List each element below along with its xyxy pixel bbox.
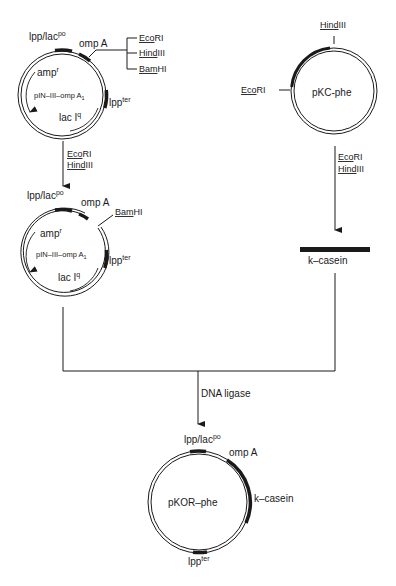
product-name: pKOR–phe — [168, 497, 218, 508]
enzyme-EcoRI: EcoRI — [338, 152, 363, 162]
site-HindIII: HindIII — [139, 48, 165, 58]
k-casein-label: k–casein — [254, 493, 293, 504]
promoter-label: lpp/lacpo — [27, 189, 64, 201]
terminator-segment — [105, 90, 107, 108]
ompA-label: omp A — [229, 447, 258, 458]
plasmid-1-name: pIN–III–omp A1 — [34, 91, 85, 101]
site-EcoRI: EcoRI — [241, 85, 266, 95]
promoter-label: lpp/lacpo — [184, 433, 221, 445]
ligation-label: DNA ligase — [201, 388, 251, 399]
promoter-label: lpp/lacpo — [29, 30, 66, 42]
plasmid-pKOR-phe: lpp/lacpo omp A k–casein pKOR–phe lppter — [148, 433, 293, 567]
lpp-ter-label: lppter — [109, 96, 131, 108]
enzyme-EcoRI: EcoRI — [67, 149, 92, 159]
site-EcoRI: EcoRI — [139, 33, 164, 43]
site-HindIII: HindIII — [320, 20, 346, 30]
plasmid-construction-diagram: lpp/lacpo omp A EcoRI HindIII BamHI ampr… — [0, 0, 396, 586]
k-casein-segment — [292, 48, 330, 87]
fragment-label: k–casein — [308, 255, 347, 266]
plasmid-1-cut-name: pIN–III–omp A1 — [36, 250, 87, 260]
lacIq-label: lac Iq — [59, 111, 81, 123]
enzyme-HindIII: HindIII — [338, 164, 364, 174]
amp-label: ampr — [40, 227, 62, 239]
terminator-segment — [193, 552, 207, 553]
lpp-ter-label: lppter — [109, 254, 131, 266]
site-BamHI: BamHI — [115, 207, 143, 217]
lpp-ter-label: lppter — [188, 555, 210, 567]
step-1-digest: EcoRI HindIII — [63, 141, 93, 186]
plasmid-pIN-III-ompA1: lpp/lacpo omp A EcoRI HindIII BamHI ampr… — [18, 30, 167, 139]
ompA-label: omp A — [81, 197, 110, 208]
plasmid-2-name: pKC-phe — [312, 87, 352, 98]
ompA-segment — [79, 54, 90, 61]
ligation-connector: DNA ligase — [63, 273, 335, 424]
k-casein-fragment: k–casein — [300, 247, 370, 266]
promoter-segment — [190, 451, 206, 452]
step-2-digest: EcoRI HindIII — [335, 146, 364, 230]
diagram-canvas: lpp/lacpo omp A EcoRI HindIII BamHI ampr… — [0, 0, 396, 586]
ompA-k-casein-segment — [227, 460, 250, 523]
lacIq-label: lac Iq — [58, 271, 80, 283]
enzyme-HindIII: HindIII — [67, 160, 93, 170]
amp-label: ampr — [37, 66, 59, 78]
ompA-label: omp A — [79, 38, 108, 49]
site-BamHI: BamHI — [139, 64, 167, 74]
plasmid-pIN-III-ompA1-cut: lpp/lacpo omp A BamHI ampr pIN–III–omp A… — [21, 189, 143, 296]
promoter-segment — [55, 50, 72, 51]
plasmid-pKC-phe: HindIII EcoRI pKC-phe — [241, 20, 377, 134]
